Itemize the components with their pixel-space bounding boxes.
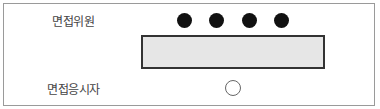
candidate-label: 면접응시자 [47, 80, 100, 97]
interviewer-seat-1-icon [177, 13, 192, 28]
interviewer-seat-4-icon [274, 13, 289, 28]
interviewers-label: 면접위원 [52, 12, 94, 29]
candidate-seat-icon [225, 80, 241, 96]
interviewer-seat-2-icon [209, 13, 224, 28]
interview-table [141, 35, 325, 69]
interviewer-seat-3-icon [242, 13, 257, 28]
